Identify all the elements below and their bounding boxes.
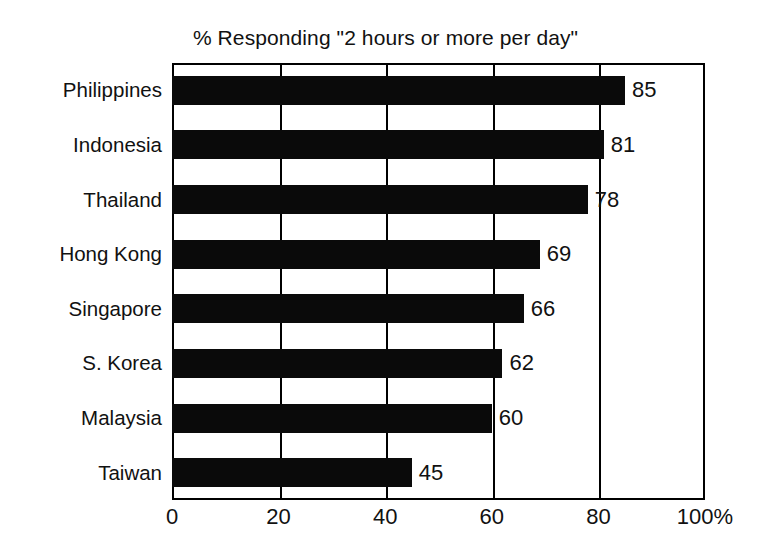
bar-value-label: 69	[540, 243, 571, 265]
bar	[172, 185, 588, 214]
bars-layer: 8581786966626045	[172, 63, 705, 500]
bar-value-label: 85	[625, 79, 656, 101]
xtick-label-0: 0	[166, 506, 178, 528]
chart-title: % Responding "2 hours or more per day"	[0, 26, 771, 50]
xtick-label-80: 80	[586, 506, 610, 528]
bar-value-label: 66	[524, 297, 555, 319]
bar	[172, 404, 492, 433]
xtick-label-60: 60	[480, 506, 504, 528]
xtick-label-20: 20	[266, 506, 290, 528]
bar-row: 62	[172, 349, 705, 378]
bar	[172, 240, 540, 269]
bar-value-label: 62	[502, 352, 533, 374]
bar	[172, 294, 524, 323]
category-label-thailand: Thailand	[0, 190, 162, 211]
bar-value-label: 60	[492, 407, 523, 429]
bar-row: 45	[172, 458, 705, 487]
category-label-singapore: Singapore	[0, 299, 162, 320]
xtick-label-100: 100%	[677, 506, 733, 528]
category-label-indonesia: Indonesia	[0, 135, 162, 156]
bar	[172, 349, 502, 378]
bar-row: 78	[172, 185, 705, 214]
bar-value-label: 81	[604, 133, 635, 155]
bar-row: 66	[172, 294, 705, 323]
category-axis-labels: PhilippinesIndonesiaThailandHong KongSin…	[0, 63, 162, 500]
category-label-philippines: Philippines	[0, 80, 162, 101]
value-axis-tick-labels: 020406080100%	[0, 506, 771, 540]
bar-row: 60	[172, 404, 705, 433]
bar	[172, 76, 625, 105]
category-label-s-korea: S. Korea	[0, 353, 162, 374]
bar-value-label: 45	[412, 461, 443, 483]
bar	[172, 130, 604, 159]
category-label-hong-kong: Hong Kong	[0, 244, 162, 265]
xtick-label-40: 40	[373, 506, 397, 528]
figure-caption-clipped	[0, 545, 771, 557]
bar	[172, 458, 412, 487]
bar-row: 81	[172, 130, 705, 159]
bar-row: 69	[172, 240, 705, 269]
bar-value-label: 78	[588, 188, 619, 210]
category-label-malaysia: Malaysia	[0, 408, 162, 429]
category-label-taiwan: Taiwan	[0, 463, 162, 484]
bar-row: 85	[172, 76, 705, 105]
bar-chart-figure: % Responding "2 hours or more per day" 8…	[0, 0, 771, 557]
